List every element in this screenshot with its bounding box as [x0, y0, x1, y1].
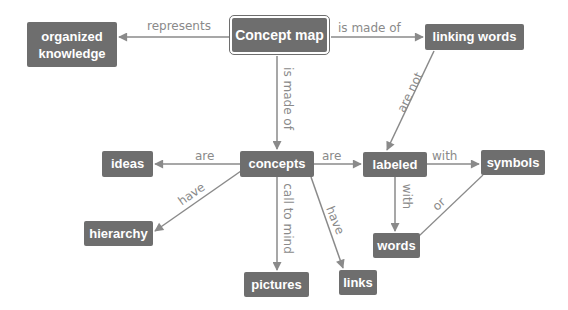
- node-symbols[interactable]: symbols: [481, 150, 545, 175]
- edge-label-with-symbols: with: [432, 150, 457, 163]
- node-ideas-label: ideas: [111, 156, 144, 172]
- node-pictures[interactable]: pictures: [244, 272, 309, 297]
- node-concepts-label: concepts: [248, 156, 305, 172]
- edge-label-are-ideas: are: [195, 150, 214, 163]
- edge-label-with-words: with: [400, 184, 413, 209]
- edge-label-is-made-of-concepts: is made of: [281, 67, 294, 130]
- node-labeled[interactable]: labeled: [363, 152, 427, 177]
- edge-or: [419, 175, 483, 236]
- node-linking-words-label: linking words: [433, 29, 517, 45]
- node-linking-words[interactable]: linking words: [425, 24, 524, 50]
- node-hierarchy[interactable]: hierarchy: [84, 221, 153, 246]
- node-concept-map-label: Concept map: [235, 27, 324, 43]
- edge-label-represents: represents: [147, 20, 211, 33]
- edge-label-are-labeled: are: [322, 150, 341, 163]
- node-hierarchy-label: hierarchy: [89, 226, 148, 242]
- node-concept-map[interactable]: Concept map: [232, 18, 327, 52]
- node-words-label: words: [377, 238, 415, 254]
- node-words[interactable]: words: [373, 233, 420, 258]
- node-ideas[interactable]: ideas: [102, 151, 153, 177]
- node-symbols-label: symbols: [487, 155, 540, 171]
- node-organized-knowledge-line2: knowledge: [38, 45, 105, 62]
- node-organized-knowledge-line1: organized: [41, 28, 102, 45]
- node-labeled-label: labeled: [373, 157, 418, 173]
- node-concepts[interactable]: concepts: [240, 151, 314, 177]
- node-organized-knowledge[interactable]: organized knowledge: [27, 22, 117, 67]
- concept-map-diagram: represents is made of is made of are not…: [0, 0, 568, 310]
- edge-label-call-to-mind: call to mind: [281, 183, 294, 254]
- node-pictures-label: pictures: [251, 277, 302, 293]
- node-links[interactable]: links: [339, 270, 377, 295]
- edge-label-is-made-of-linking: is made of: [338, 22, 401, 35]
- node-links-label: links: [343, 275, 373, 291]
